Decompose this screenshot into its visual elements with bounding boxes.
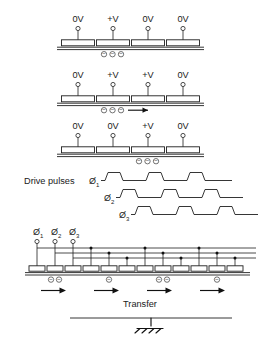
ccd-electrodes — [29, 266, 243, 271]
svg-text:Ø: Ø — [119, 210, 126, 220]
panel-2-substrate — [57, 103, 204, 105]
panel-1-terminals — [76, 26, 185, 40]
waveform-trace-phase-2 — [116, 190, 243, 198]
svg-text:3: 3 — [76, 233, 80, 239]
terminal-circle — [76, 133, 80, 137]
electrode — [62, 40, 95, 46]
panel-2-charge-packet: − − − — [101, 106, 123, 113]
svg-text:−: − — [102, 106, 106, 113]
waveform-label-phase-2: Ø 2 — [104, 193, 115, 205]
panel-1-electrodes — [62, 40, 200, 46]
charge-carrier: − — [110, 50, 115, 57]
waveform-label-phase-3: Ø 3 — [119, 210, 130, 222]
electrode — [155, 266, 171, 271]
ccd-phase-label-2: Ø 2 — [51, 227, 62, 239]
svg-text:Ø: Ø — [69, 227, 76, 237]
terminal-circle — [181, 82, 185, 86]
svg-text:Ø: Ø — [33, 227, 40, 237]
terminal-circle — [53, 239, 57, 243]
terminal-circle — [181, 26, 185, 30]
svg-text:−: − — [119, 50, 123, 57]
charge-carrier: − — [48, 276, 53, 283]
svg-text:Ø: Ø — [89, 176, 96, 186]
terminal-circle — [76, 82, 80, 86]
panel-1-electrode-label-2: +V — [107, 14, 119, 24]
ccd-transfer-diagram: 0V +V 0V 0V — [0, 0, 280, 341]
panel-3-substrate — [57, 154, 204, 156]
transfer-label: Transfer — [123, 299, 157, 309]
svg-text:−: − — [137, 157, 141, 164]
panel-3: 0V 0V +V 0V — [57, 121, 204, 164]
charge-carrier: − — [153, 157, 158, 164]
waveform-label-phase-1: Ø 1 — [89, 176, 100, 188]
electrode — [47, 266, 63, 271]
panel-2-electrode-label-1: 0V — [72, 70, 84, 80]
svg-text:2: 2 — [58, 233, 62, 239]
electrode — [119, 266, 135, 271]
terminal-circle — [76, 26, 80, 30]
electrode — [97, 96, 130, 102]
panel-2-terminals — [76, 82, 185, 96]
svg-text:−: − — [111, 50, 115, 57]
electrode — [101, 266, 117, 271]
panel-2-transfer-arrow-icon — [128, 108, 148, 113]
panel-3-electrodes — [62, 147, 200, 153]
electrode — [97, 147, 130, 153]
terminal-circle — [146, 82, 150, 86]
ccd-phase-terminals — [35, 239, 75, 243]
electrode — [167, 147, 200, 153]
svg-text:−: − — [215, 276, 219, 283]
ground-icon — [135, 318, 163, 333]
charge-carrier: − — [56, 276, 61, 283]
panel-2: 0V +V +V 0V — [57, 70, 204, 113]
svg-text:1: 1 — [40, 233, 44, 239]
panel-2-electrode-label-3: +V — [142, 70, 154, 80]
terminal-circle — [111, 26, 115, 30]
electrode — [227, 266, 243, 271]
charge-carrier: − — [101, 50, 106, 57]
panel-3-electrode-label-3: +V — [142, 121, 154, 131]
drive-pulses-label: Drive pulses — [24, 176, 75, 186]
electrode — [83, 266, 99, 271]
panel-1: 0V +V 0V 0V — [57, 14, 204, 57]
electrode — [167, 96, 200, 102]
panel-3-terminals — [76, 133, 185, 147]
terminal-circle — [111, 133, 115, 137]
drive-pulses-section: Drive pulses Ø 1 Ø 2 Ø 3 — [24, 173, 258, 222]
charge-carrier: − — [101, 106, 106, 113]
svg-text:−: − — [119, 106, 123, 113]
panel-3-electrode-label-2: 0V — [107, 121, 119, 131]
ccd-array-section: Ø 1 Ø 2 Ø 3 — [25, 227, 256, 333]
figure-canvas: 0V +V 0V 0V — [0, 0, 280, 341]
charge-carrier: − — [106, 276, 111, 283]
panel-3-electrode-label-4: 0V — [177, 121, 189, 131]
svg-text:−: − — [102, 50, 106, 57]
electrode — [62, 96, 95, 102]
panel-2-electrodes — [62, 96, 200, 102]
electrode — [29, 266, 45, 271]
electrode — [167, 40, 200, 46]
charge-carrier: − — [136, 157, 141, 164]
ccd-transfer-arrows — [41, 288, 225, 294]
ccd-gate-leads — [37, 248, 235, 266]
panel-1-electrode-label-3: 0V — [142, 14, 154, 24]
ccd-charge-packets: − − − − − — [48, 276, 219, 283]
terminal-circle — [111, 82, 115, 86]
charge-carrier: − — [118, 106, 123, 113]
svg-text:−: − — [57, 276, 61, 283]
electrode — [209, 266, 225, 271]
panel-3-electrode-label-1: 0V — [72, 121, 84, 131]
electrode — [65, 266, 81, 271]
transfer-arrow-icon — [147, 288, 172, 294]
ccd-phase-label-1: Ø 1 — [33, 227, 44, 239]
panel-1-electrode-label-1: 0V — [72, 14, 84, 24]
svg-text:−: − — [107, 276, 111, 283]
charge-carrier: − — [156, 276, 161, 283]
transfer-arrow-icon — [41, 288, 66, 294]
panel-2-electrode-label-2: +V — [107, 70, 119, 80]
electrode — [137, 266, 153, 271]
svg-text:1: 1 — [96, 182, 100, 188]
electrode — [132, 96, 165, 102]
electrode — [132, 40, 165, 46]
transfer-arrow-icon — [200, 288, 225, 294]
